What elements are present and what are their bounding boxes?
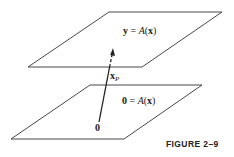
bottom-plane: [11, 85, 202, 139]
vector-label-subscript: P: [115, 75, 119, 83]
equation-paren-close: ): [152, 95, 155, 106]
equation-paren-close: ): [153, 25, 156, 36]
top-plane: [28, 12, 222, 67]
figure-caption: FIGURE 2–9: [166, 140, 219, 149]
top-plane-equation: y = A(x): [123, 26, 156, 36]
figure-2-9: y = A(x) 0 = A(x) xP 0 FIGURE 2–9: [0, 0, 234, 157]
equation-equals: =: [128, 25, 139, 36]
arrowhead-icon: [110, 48, 115, 56]
bottom-plane-equation: 0 = A(x): [122, 96, 155, 106]
origin-label: 0: [95, 123, 100, 133]
origin-label-text: 0: [95, 122, 100, 133]
vector-label: xP: [110, 71, 119, 83]
equation-equals: =: [127, 95, 138, 106]
vector-xp-solid: [99, 67, 110, 122]
vector-xp-dashed: [110, 54, 113, 67]
